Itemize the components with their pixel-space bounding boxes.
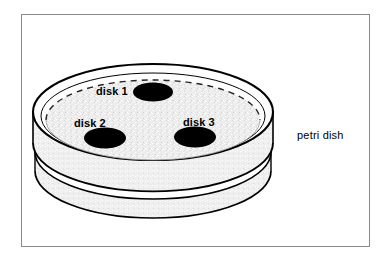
- figure-root: disk 1 disk 2 disk 3 petri dish: [0, 0, 388, 261]
- disk-1-label: disk 1: [96, 85, 128, 97]
- disk-3-shape[interactable]: [174, 127, 216, 148]
- disk-2-shape[interactable]: [84, 128, 126, 149]
- disk-1-shape[interactable]: [133, 83, 173, 102]
- petri-dish-illustration: disk 1 disk 2 disk 3 petri dish: [0, 0, 388, 261]
- disk-3-label: disk 3: [183, 116, 215, 128]
- disk-2-label: disk 2: [74, 117, 106, 129]
- petri-dish-label: petri dish: [297, 129, 344, 141]
